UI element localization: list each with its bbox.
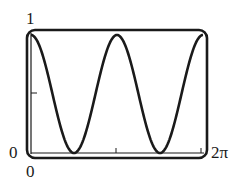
y-min-label: 0	[9, 144, 18, 161]
x-max-label: 2π	[211, 144, 228, 161]
screen-frame	[27, 30, 207, 158]
plot-area	[0, 0, 236, 186]
y-max-label: 1	[26, 10, 35, 27]
x-min-label: 0	[26, 163, 35, 180]
cos-squared-curve	[31, 35, 203, 153]
